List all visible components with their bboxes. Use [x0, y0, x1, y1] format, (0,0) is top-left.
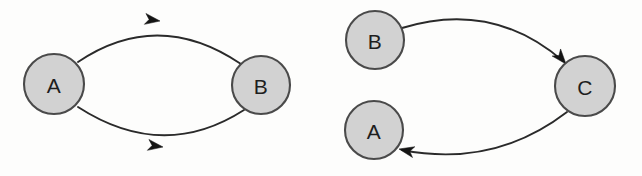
node-a-left[interactable]: A: [24, 54, 84, 114]
edge-c-to-a-curve: [402, 112, 567, 154]
node-a-left-label: A: [47, 74, 61, 97]
edge-b-to-c[interactable]: [402, 19, 570, 67]
edge-b-to-c-curve: [402, 19, 563, 61]
node-b-right-label: B: [368, 30, 382, 53]
arrowhead-icon: [398, 144, 415, 158]
node-c-right-label: C: [577, 76, 592, 99]
edge-b-to-a[interactable]: [78, 13, 241, 64]
arrowhead-icon: [147, 139, 163, 152]
diagram-canvas: A B B A: [0, 0, 642, 176]
edge-a-to-b-curve: [78, 107, 244, 135]
node-b-left[interactable]: B: [232, 56, 290, 114]
diagram-two-node-cycle: A B: [24, 13, 290, 152]
edge-b-to-a-curve: [78, 35, 241, 64]
node-b-right[interactable]: B: [346, 11, 404, 69]
edge-c-to-a[interactable]: [398, 112, 567, 157]
node-c-right[interactable]: C: [555, 56, 615, 116]
node-a-right-label: A: [367, 120, 381, 143]
node-b-left-label: B: [254, 75, 268, 98]
edge-a-to-b[interactable]: [78, 107, 244, 152]
graph-diagram-figure: A B B A: [0, 0, 642, 176]
arrowhead-icon: [144, 13, 160, 26]
node-a-right[interactable]: A: [345, 101, 403, 159]
diagram-three-node-chain: B A C: [345, 11, 615, 159]
